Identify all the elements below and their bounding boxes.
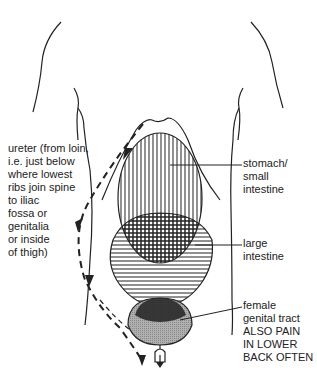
ureter-line: ureter (from loin, — [8, 142, 118, 155]
large-intestine-line: intestine — [243, 250, 284, 263]
female-line: genital tract — [243, 312, 300, 325]
ureter-line: to iliac — [8, 194, 118, 207]
stomach-line: small — [243, 170, 288, 183]
ureter-label: ureter (from loin, i.e. just below where… — [8, 142, 118, 259]
note-line: ALSO PAIN — [243, 325, 313, 338]
ureter-line: fossa or — [8, 207, 118, 220]
ureter-line: genitalia — [8, 220, 118, 233]
large-intestine-line: large — [243, 237, 284, 250]
ureter-line: of thigh) — [8, 246, 118, 259]
back-pain-note: ALSO PAIN IN LOWER BACK OFTEN — [243, 325, 313, 364]
note-line: IN LOWER — [243, 338, 313, 351]
ureter-line: i.e. just below — [8, 155, 118, 168]
ureter-line: ribs join spine — [8, 181, 118, 194]
ureter-line: where lowest — [8, 168, 118, 181]
stomach-label: stomach/ small intestine — [243, 157, 288, 196]
female-line: female — [243, 299, 300, 312]
large-intestine-label: large intestine — [243, 237, 284, 263]
note-line: BACK OFTEN — [243, 351, 313, 364]
stomach-line: intestine — [243, 183, 288, 196]
female-tract-label: female genital tract — [243, 299, 300, 325]
stomach-line: stomach/ — [243, 157, 288, 170]
ureter-line: or inside — [8, 233, 118, 246]
